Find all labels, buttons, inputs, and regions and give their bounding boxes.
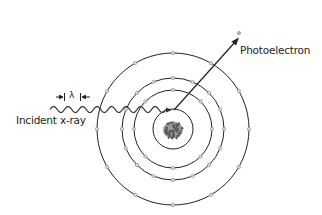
wave-arrowhead (166, 108, 172, 113)
incident-xray-label: Incident x-ray (16, 114, 86, 126)
incident-xray-wave (50, 107, 168, 113)
nucleus (163, 121, 184, 139)
wavelength-label: λ (69, 90, 74, 100)
photoelectron-label: Photoelectron (240, 44, 310, 56)
photoelectric-diagram: λ Incident x-ray Photoelectron (0, 0, 322, 215)
atom-illustration (0, 0, 322, 215)
photoelectron-dot (237, 31, 240, 34)
